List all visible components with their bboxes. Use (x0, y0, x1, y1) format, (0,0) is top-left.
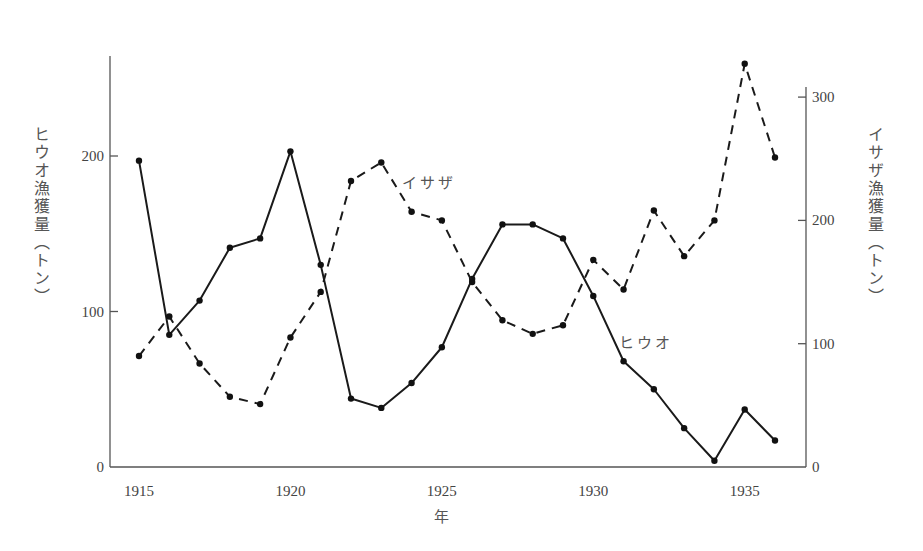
data-point (439, 217, 445, 223)
y-tick-label-right: 200 (812, 212, 835, 228)
data-point (378, 159, 384, 165)
data-point (590, 293, 596, 299)
data-point (772, 154, 778, 160)
series-label-hiuo: ヒウオ (619, 334, 673, 352)
y-axis-title-right: イサザ漁獲量（トン） (862, 126, 886, 306)
data-point (681, 425, 687, 431)
x-tick-label: 1920 (275, 483, 305, 499)
data-point (530, 221, 536, 227)
data-point (711, 217, 717, 223)
data-point (711, 458, 717, 464)
data-point (590, 257, 596, 263)
y-tick-label-left: 200 (82, 148, 105, 164)
data-point (499, 317, 505, 323)
series-line-isaza (139, 64, 775, 404)
data-point (287, 148, 293, 154)
series-line-hiuo (139, 151, 775, 460)
x-tick-label: 1935 (730, 483, 760, 499)
data-point (227, 245, 233, 251)
data-point (257, 235, 263, 241)
data-point (257, 401, 263, 407)
data-point (651, 386, 657, 392)
data-point (287, 334, 293, 340)
data-point (439, 344, 445, 350)
data-point (196, 297, 202, 303)
data-point (469, 279, 475, 285)
x-tick-label: 1925 (427, 483, 457, 499)
data-point (196, 360, 202, 366)
y-tick-label-left: 100 (82, 304, 105, 320)
data-point (620, 286, 626, 292)
y-axis-title-left: ヒウオ漁獲量（トン） (28, 126, 52, 306)
data-point (560, 322, 566, 328)
data-point (348, 395, 354, 401)
x-tick-label: 1930 (578, 483, 608, 499)
data-point (651, 207, 657, 213)
data-point (742, 406, 748, 412)
data-point (560, 235, 566, 241)
y-tick-label-right: 0 (812, 459, 820, 475)
data-point (318, 262, 324, 268)
y-tick-label-right: 100 (812, 336, 835, 352)
dual-axis-line-chart: 0100200010020030019151920192519301935 イサ… (0, 0, 923, 551)
data-point (348, 178, 354, 184)
data-point (408, 209, 414, 215)
data-point (136, 353, 142, 359)
data-point (772, 437, 778, 443)
data-point (227, 394, 233, 400)
data-point (378, 405, 384, 411)
x-axis-title: 年 (434, 508, 449, 526)
x-tick-label: 1915 (124, 483, 154, 499)
data-point (166, 313, 172, 319)
axes: 0100200010020030019151920192519301935 (82, 56, 835, 499)
y-tick-label-right: 300 (812, 89, 835, 105)
data-point (530, 331, 536, 337)
series-label-isaza: イサザ (402, 174, 456, 192)
y-tick-label-left: 0 (97, 459, 105, 475)
data-point (408, 380, 414, 386)
data-point (742, 61, 748, 67)
data-point (681, 253, 687, 259)
data-point (318, 289, 324, 295)
series-layer (136, 61, 778, 464)
data-point (166, 332, 172, 338)
data-point (499, 221, 505, 227)
data-point (620, 358, 626, 364)
data-point (136, 157, 142, 163)
